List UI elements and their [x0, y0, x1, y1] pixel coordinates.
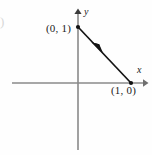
edge-artifact-glyph: )	[0, 14, 4, 30]
directed-segment	[79, 28, 131, 83]
x-axis-arrowhead-icon	[143, 79, 149, 86]
y-axis-label: y	[84, 7, 88, 17]
point-label-1-0: (1, 0)	[111, 85, 136, 96]
figure-canvas	[0, 0, 152, 155]
y-axis-arrowhead-icon	[74, 9, 81, 15]
point-marker-0-1	[76, 25, 80, 29]
x-axis-label: x	[137, 65, 141, 75]
point-label-0-1: (0, 1)	[46, 23, 71, 34]
coordinate-plane-figure: (0, 1) (1, 0) x y )	[0, 0, 152, 155]
